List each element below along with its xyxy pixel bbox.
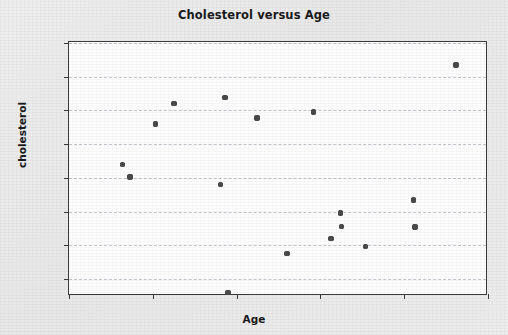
- y-tick-mark: [64, 43, 69, 44]
- x-axis-label: Age: [0, 313, 508, 325]
- data-point: [453, 62, 459, 68]
- y-tick-mark: [64, 279, 69, 280]
- data-point: [120, 162, 126, 168]
- gridline: [69, 245, 486, 246]
- data-point: [127, 174, 133, 180]
- y-tick-mark: [64, 110, 69, 111]
- y-tick-mark: [64, 245, 69, 246]
- data-point: [222, 95, 228, 101]
- data-point: [225, 290, 231, 296]
- gridline: [69, 279, 486, 280]
- y-tick-mark: [64, 178, 69, 179]
- y-tick-mark: [64, 212, 69, 213]
- plot-area: 3035404550556065 203040506070: [68, 41, 487, 295]
- data-point: [339, 224, 345, 230]
- x-tick-mark: [404, 294, 405, 299]
- y-tick-mark: [64, 144, 69, 145]
- x-tick-mark: [237, 294, 238, 299]
- gridline: [69, 212, 486, 213]
- data-point: [284, 251, 290, 257]
- data-point: [171, 101, 177, 107]
- data-point: [254, 115, 260, 121]
- data-point: [412, 224, 418, 230]
- gridline: [69, 144, 486, 145]
- chart-figure: Cholesterol versus Age cholesterol Age 3…: [0, 0, 508, 335]
- gridline: [69, 43, 486, 44]
- data-point: [328, 236, 334, 242]
- data-point: [363, 244, 369, 250]
- gridline: [69, 77, 486, 78]
- y-tick-mark: [64, 77, 69, 78]
- x-tick-mark: [153, 294, 154, 299]
- data-point: [311, 109, 317, 115]
- data-point: [218, 182, 224, 188]
- data-point: [411, 197, 417, 203]
- x-tick-mark: [488, 294, 489, 299]
- chart-title: Cholesterol versus Age: [0, 8, 508, 22]
- x-tick-mark: [320, 294, 321, 299]
- data-point: [153, 121, 159, 127]
- x-tick-mark: [69, 294, 70, 299]
- data-point: [338, 210, 344, 216]
- gridline: [69, 110, 486, 111]
- y-axis-label: cholesterol: [16, 102, 28, 168]
